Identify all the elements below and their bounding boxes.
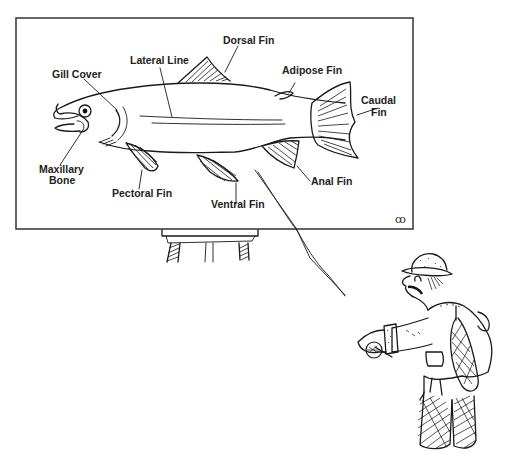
cartoon-scene: Gill Cover Lateral Line Dorsal Fin Adipo… <box>0 0 525 460</box>
landing-net <box>451 306 479 391</box>
label-adipose-fin: Adipose Fin <box>282 64 342 76</box>
label-ventral-fin: Ventral Fin <box>211 198 265 210</box>
angler-pocket <box>426 352 444 366</box>
angler-hat <box>402 254 452 276</box>
label-caudal-fin-line1: Caudal <box>361 94 396 106</box>
label-lateral-line: Lateral Line <box>130 54 189 66</box>
label-anal-fin: Anal Fin <box>311 175 352 187</box>
angler-mustache <box>408 287 422 294</box>
easel-right-leg <box>239 243 249 260</box>
easel-center-post <box>205 243 213 262</box>
easel <box>162 229 258 262</box>
easel-left-leg <box>167 243 180 262</box>
label-gill-cover: Gill Cover <box>52 68 102 80</box>
label-caudal-fin-line2: Fin <box>371 106 387 118</box>
angler-waders <box>418 392 476 449</box>
artist-signature: ꝏ <box>395 213 406 226</box>
label-pectoral-fin: Pectoral Fin <box>112 187 172 199</box>
angler-cuff <box>384 324 398 354</box>
label-maxillary-line2: Bone <box>49 174 75 186</box>
angler-hair <box>428 277 443 290</box>
label-dorsal-fin: Dorsal Fin <box>223 34 274 46</box>
